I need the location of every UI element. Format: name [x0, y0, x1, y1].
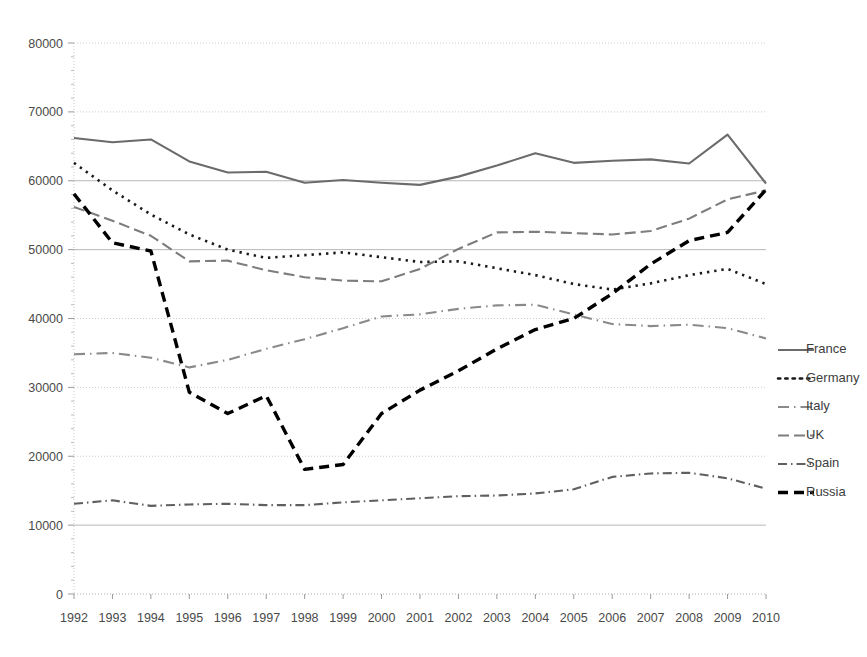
x-tick-label: 1998: [291, 611, 319, 625]
x-tick-label: 2010: [752, 611, 780, 625]
x-tick-label: 1992: [60, 611, 88, 625]
x-tick-label: 2009: [714, 611, 742, 625]
y-tick-label: 10000: [28, 519, 63, 533]
y-tick-label: 70000: [28, 105, 63, 119]
x-tick-label: 1997: [252, 611, 280, 625]
legend-label-germany: Germany: [806, 370, 860, 385]
x-tick-label: 2001: [406, 611, 434, 625]
y-tick-label: 0: [56, 588, 63, 602]
x-tick-label: 1994: [137, 611, 165, 625]
x-tick-label: 1995: [175, 611, 203, 625]
x-tick-label: 2005: [560, 611, 588, 625]
x-tick-label: 2002: [445, 611, 473, 625]
y-tick-label: 30000: [28, 381, 63, 395]
x-tick-label: 1996: [214, 611, 242, 625]
x-tick-label: 2003: [483, 611, 511, 625]
legend-label-uk: UK: [806, 427, 824, 442]
y-tick-label: 50000: [28, 243, 63, 257]
x-tick-label: 1999: [329, 611, 357, 625]
x-tick-label: 2007: [637, 611, 665, 625]
legend-label-russia: Russia: [806, 484, 847, 499]
chart-canvas: 0100002000030000400005000060000700008000…: [0, 0, 867, 657]
legend-label-italy: Italy: [806, 398, 830, 413]
x-tick-label: 2004: [521, 611, 549, 625]
y-tick-label: 20000: [28, 450, 63, 464]
x-tick-label: 2006: [598, 611, 626, 625]
legend-label-france: France: [806, 341, 846, 356]
line-chart: 0100002000030000400005000060000700008000…: [0, 0, 867, 657]
x-tick-label: 2000: [368, 611, 396, 625]
x-tick-label: 2008: [675, 611, 703, 625]
chart-background: [0, 0, 867, 657]
x-tick-label: 1993: [99, 611, 127, 625]
y-tick-label: 80000: [28, 37, 63, 51]
y-tick-label: 40000: [28, 312, 63, 326]
y-tick-label: 60000: [28, 174, 63, 188]
legend-label-spain: Spain: [806, 455, 839, 470]
